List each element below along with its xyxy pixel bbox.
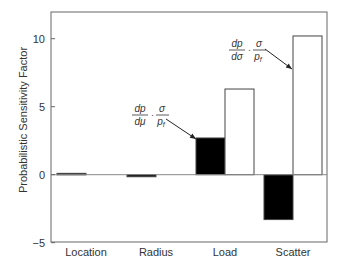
- annotation-mean: dpdμ·σpf: [132, 103, 196, 139]
- annotation-sigma: dpdσ·σpf: [229, 38, 292, 69]
- y-tick-label: 0: [39, 169, 45, 181]
- svg-text:dσ: dσ: [231, 51, 244, 62]
- x-axis-labels: LocationRadiusLoadScatter: [65, 246, 311, 258]
- bar-mean-load: [196, 138, 225, 175]
- sensitivity-bar-chart: −50510 LocationRadiusLoadScatter Probabi…: [0, 0, 344, 270]
- bar-sigma-load: [225, 89, 254, 175]
- y-tick-label: 5: [39, 101, 45, 113]
- bar-mean-scatter: [264, 175, 293, 220]
- svg-text:dμ: dμ: [134, 116, 146, 127]
- svg-text:pf: pf: [156, 116, 166, 128]
- bar-sigma-scatter: [293, 36, 322, 175]
- svg-text:pf: pf: [253, 51, 263, 63]
- y-axis-ticks: −50510: [32, 33, 55, 249]
- svg-text:σ: σ: [159, 103, 166, 114]
- x-tick-label: Radius: [139, 246, 174, 258]
- svg-text:·: ·: [248, 45, 251, 55]
- bars-group: [57, 36, 322, 220]
- x-tick-label: Load: [213, 246, 237, 258]
- svg-text:·: ·: [151, 110, 154, 120]
- annotations-group: dpdμ·σpfdpdσ·σpf: [132, 38, 292, 139]
- svg-text:dp: dp: [231, 38, 243, 49]
- x-tick-label: Location: [65, 246, 107, 258]
- x-tick-label: Scatter: [276, 246, 311, 258]
- svg-text:σ: σ: [256, 38, 263, 49]
- y-tick-label: 10: [33, 33, 45, 45]
- y-tick-label: −5: [32, 237, 45, 249]
- y-axis-label: Probabilistic Sensitivity Factor: [17, 47, 29, 193]
- svg-text:dp: dp: [134, 103, 146, 114]
